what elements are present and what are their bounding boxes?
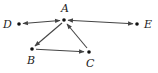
node-a — [62, 18, 66, 22]
label-c: C — [86, 58, 94, 69]
label-e: E — [144, 19, 152, 30]
directed-graph-diagram: A B C D E — [0, 0, 158, 73]
label-d: D — [3, 19, 12, 30]
edge-b-c — [36, 49, 84, 51]
edge-a-e — [68, 20, 133, 23]
node-e — [135, 22, 139, 26]
edge-a-d — [23, 21, 60, 24]
label-b: B — [27, 55, 35, 66]
node-d — [17, 22, 21, 26]
edge-c-a — [67, 24, 87, 48]
graph-canvas — [0, 0, 158, 73]
node-b — [30, 47, 34, 51]
edge-a-b — [35, 23, 62, 46]
node-c — [87, 50, 91, 54]
label-a: A — [61, 3, 69, 14]
